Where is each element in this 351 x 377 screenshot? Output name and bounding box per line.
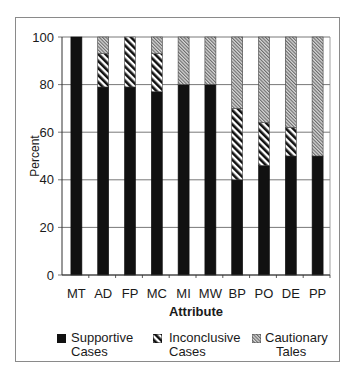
- bar-segment-cautionary-tales: [232, 37, 243, 108]
- x-tick-label: DE: [282, 286, 300, 301]
- stacked-bar-chart: 020406080100 MTADFPMCMIMWBPPODEPP Attrib…: [0, 0, 351, 377]
- bar-segment-cautionary-tales: [205, 37, 216, 85]
- bar-segment-supportive-cases: [71, 37, 82, 275]
- bar-segment-cautionary-tales: [151, 37, 162, 54]
- bar-segment-supportive-cases: [205, 85, 216, 275]
- bar-segment-cautionary-tales: [98, 37, 109, 54]
- bar-segment-cautionary-tales: [259, 37, 270, 123]
- y-tick-label: 80: [40, 77, 54, 92]
- legend-label: Supportive: [71, 331, 133, 344]
- y-tick-label: 20: [40, 220, 54, 235]
- y-tick-label: 100: [32, 30, 54, 45]
- legend-label: Cases: [71, 345, 108, 358]
- bar-segment-inconclusive-cases: [285, 127, 296, 156]
- bar-segment-supportive-cases: [125, 87, 136, 275]
- x-tick-label: MW: [199, 286, 223, 301]
- legend-label: Inconclusive: [169, 331, 241, 344]
- bar-segment-supportive-cases: [312, 156, 323, 275]
- bar-segment-cautionary-tales: [285, 37, 296, 127]
- bar-segment-cautionary-tales: [178, 37, 189, 85]
- x-tick-label: BP: [229, 286, 246, 301]
- y-axis-title: Percent: [28, 135, 42, 177]
- bar-segment-inconclusive-cases: [232, 108, 243, 179]
- bar-segment-inconclusive-cases: [259, 123, 270, 166]
- bar-segment-cautionary-tales: [312, 37, 323, 156]
- x-tick-label: FP: [122, 286, 139, 301]
- x-tick-label: PP: [309, 286, 326, 301]
- x-tick-label: AD: [94, 286, 112, 301]
- x-axis-title: Attribute: [169, 304, 223, 319]
- bar-segment-supportive-cases: [232, 180, 243, 275]
- legend: Supportive Cases Inconclusive Cases Caut…: [0, 327, 351, 363]
- x-tick-label: PO: [255, 286, 274, 301]
- x-tick-labels: MTADFPMCMIMWBPPODEPP: [67, 286, 326, 301]
- x-tick-label: MT: [67, 286, 86, 301]
- legend-label: Tales: [276, 345, 306, 358]
- x-tick-label: MC: [147, 286, 167, 301]
- bar-segment-supportive-cases: [178, 85, 189, 275]
- solid-swatch-icon: [57, 334, 66, 343]
- y-tick-label: 0: [47, 268, 54, 283]
- legend-label: Cases: [169, 345, 206, 358]
- bar-segment-supportive-cases: [151, 92, 162, 275]
- bars: [71, 37, 323, 275]
- legend-label: Cautionary: [265, 331, 328, 344]
- bar-segment-inconclusive-cases: [125, 37, 136, 87]
- bar-segment-supportive-cases: [259, 166, 270, 275]
- x-tick-label: MI: [176, 286, 190, 301]
- hatch-swatch-icon: [153, 334, 162, 343]
- bar-segment-supportive-cases: [285, 156, 296, 275]
- bar-segment-supportive-cases: [98, 87, 109, 275]
- bar-segment-inconclusive-cases: [98, 54, 109, 87]
- fine-hatch-swatch-icon: [252, 334, 261, 343]
- bar-segment-inconclusive-cases: [151, 54, 162, 92]
